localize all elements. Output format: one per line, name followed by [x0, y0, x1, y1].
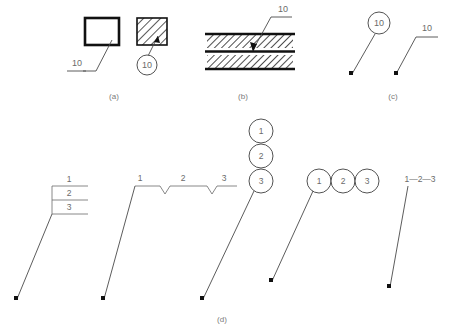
panel-c: 10 10 (c) [349, 12, 438, 101]
panel-c-right-dot-terminator [394, 71, 398, 75]
stacked-box-numeral-3: 3 [67, 202, 72, 212]
inline-notched-leader-line [104, 186, 135, 299]
vertical-balloons-dot-terminator [200, 296, 204, 300]
stacked-box-numeral-1: 1 [67, 174, 72, 184]
horizontal-balloon-numeral-2: 2 [341, 176, 346, 186]
horizontal-balloon-numeral-1: 1 [317, 176, 322, 186]
inline-notched-numeral-1: 1 [138, 173, 143, 183]
panel-c-right-leader-line [396, 37, 438, 74]
dash-separated-leader-line [390, 186, 408, 287]
inline-notched-numeral-3: 3 [222, 173, 227, 183]
plain-part-rectangle [85, 18, 119, 45]
hatched-part-numeral: 10 [142, 60, 152, 70]
dash-separated-dot-terminator [387, 284, 391, 288]
stacked-box-numeral-2: 2 [67, 188, 72, 198]
horizontal-balloons-dot-terminator [269, 278, 273, 282]
caption-a: (a) [109, 92, 119, 101]
inline-notched-dot-terminator [101, 296, 105, 300]
vertical-balloon-numeral-1: 1 [259, 126, 264, 136]
caption-c: (c) [388, 92, 398, 101]
stacked-box-leader-line [17, 214, 52, 299]
variant-inline-notched: 1 2 3 [101, 173, 237, 300]
variant-stacked-box: 1 2 3 [14, 174, 88, 300]
plain-part-numeral: 10 [72, 58, 82, 68]
inline-notched-numeral-2: 2 [181, 173, 186, 183]
panel-d: 1 2 3 1 2 3 1 2 3 1 [14, 119, 436, 324]
horizontal-balloon-numeral-3: 3 [365, 176, 370, 186]
panel-c-left-leader-line [352, 34, 375, 74]
vertical-balloons-leader-line [203, 191, 254, 299]
dash-separated-numerals: 1—2—3 [404, 174, 435, 184]
caption-b: (b) [238, 92, 248, 101]
variant-vertical-balloons: 1 2 3 [200, 119, 273, 300]
stacked-box-dot-terminator [14, 296, 18, 300]
hatched-part-rectangle [137, 18, 167, 45]
panel-c-left-numeral: 10 [374, 18, 384, 28]
panel-c-right-numeral: 10 [422, 23, 432, 33]
inline-notched-shelf-line [135, 186, 237, 194]
variant-dash-separated: 1—2—3 [387, 174, 436, 288]
vertical-balloon-numeral-2: 2 [259, 151, 264, 161]
layer-hatched-upper [207, 35, 293, 48]
panel-a: 10 10 (a) [67, 18, 167, 101]
caption-d: (d) [217, 315, 227, 324]
variant-horizontal-balloons: 1 2 3 [269, 169, 379, 282]
layer-hatched-lower [207, 55, 293, 68]
panel-b-numeral: 10 [278, 4, 288, 14]
horizontal-balloons-leader-line [272, 191, 313, 281]
technical-figure: 10 10 (a) 10 (b) [0, 0, 451, 334]
vertical-balloon-numeral-3: 3 [259, 176, 264, 186]
panel-c-left-dot-terminator [349, 71, 353, 75]
panel-b: 10 (b) [205, 4, 295, 101]
